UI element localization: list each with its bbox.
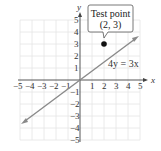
- x-axis-arrow-icon: [143, 78, 148, 82]
- x-axis-label: x: [150, 75, 155, 85]
- svg-text:5: 5: [138, 81, 143, 91]
- svg-text:−3: −3: [70, 111, 80, 121]
- svg-text:2: 2: [102, 81, 107, 91]
- svg-text:−5: −5: [13, 81, 23, 91]
- equation-label: 4y = 3x: [108, 58, 139, 69]
- svg-text:1: 1: [90, 81, 95, 91]
- svg-text:−5: −5: [70, 135, 80, 145]
- callout-coords: (2, 3): [100, 19, 122, 31]
- svg-text:−1: −1: [70, 87, 80, 97]
- svg-text:4: 4: [126, 81, 131, 91]
- svg-text:−4: −4: [25, 81, 35, 91]
- test-point-marker: [101, 41, 107, 47]
- svg-text:−2: −2: [49, 81, 59, 91]
- svg-text:3: 3: [114, 81, 119, 91]
- callout-title: Test point: [91, 8, 131, 19]
- svg-text:4: 4: [74, 27, 79, 37]
- y-axis-arrow-icon: [78, 12, 82, 17]
- svg-text:−2: −2: [70, 99, 80, 109]
- svg-text:5: 5: [74, 15, 79, 25]
- svg-text:1: 1: [74, 63, 79, 73]
- svg-text:3: 3: [74, 39, 79, 49]
- svg-text:−3: −3: [37, 81, 47, 91]
- test-point-callout: Test point (2, 3): [88, 5, 133, 38]
- svg-text:−4: −4: [70, 123, 80, 133]
- coordinate-plane: x y −5 −4 −3 −2 −1 1 2 3 4 5 5 4 3 2 1 −…: [0, 0, 161, 151]
- svg-text:2: 2: [74, 51, 79, 61]
- y-axis-label: y: [76, 2, 81, 12]
